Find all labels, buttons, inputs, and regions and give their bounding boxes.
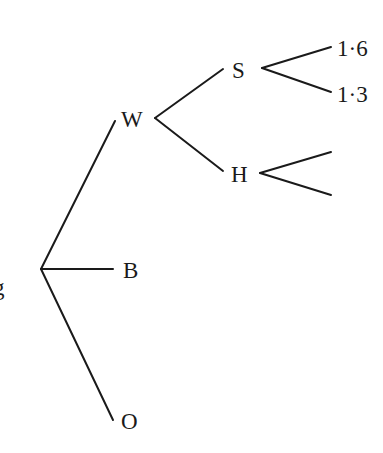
node-s-label: S: [232, 59, 245, 82]
tree-diagram: g W S 1·6 1·3 H B O: [0, 0, 383, 453]
leaf-s1-value: 1·6: [337, 37, 368, 60]
node-w-label: W: [121, 108, 143, 131]
branch-s-leaf2: [262, 68, 331, 92]
branch-s-leaf1: [262, 47, 331, 68]
branch-root-o: [41, 269, 113, 420]
branch-root-w: [41, 121, 115, 269]
branch-w-s: [155, 69, 223, 118]
tree-branches: [0, 0, 383, 453]
branch-h-leaf1: [260, 152, 331, 173]
node-o-label: O: [121, 410, 138, 433]
branch-w-h: [155, 118, 223, 171]
leaf-s2-value: 1·3: [337, 83, 368, 106]
node-h-label: H: [231, 163, 248, 186]
root-label: g: [0, 276, 5, 299]
branch-h-leaf2: [260, 173, 331, 195]
node-b-label: B: [123, 259, 138, 282]
